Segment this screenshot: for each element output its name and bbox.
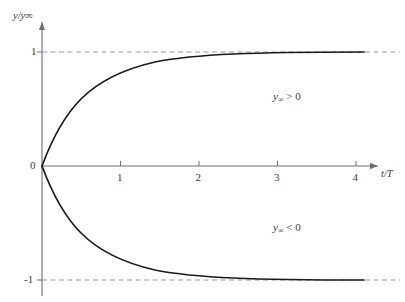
y-axis-arrowhead xyxy=(39,22,45,30)
y-tick-label-negative-one: -1 xyxy=(24,274,33,285)
x-axis-arrowhead xyxy=(370,163,378,169)
lower-region-subscript: ∞ xyxy=(278,226,284,235)
x-tick-label-2: 2 xyxy=(196,172,202,183)
x-axis-title: t/T xyxy=(381,169,393,180)
x-tick-label-4: 4 xyxy=(353,172,359,183)
upper-region-label: y∞ > 0 xyxy=(273,91,301,104)
chart-canvas xyxy=(0,0,405,302)
lower-region-relation: < 0 xyxy=(286,221,300,233)
lower-curve xyxy=(42,166,364,280)
y-axis-title-text: y/y∞ xyxy=(13,10,33,21)
lower-region-label: y∞ < 0 xyxy=(273,222,301,235)
x-tick-label-3: 3 xyxy=(274,172,280,183)
origin-tick-label: 0 xyxy=(30,160,36,171)
x-axis-title-text: t/T xyxy=(381,168,393,179)
x-tick-label-1: 1 xyxy=(117,172,123,183)
upper-curve xyxy=(42,52,364,166)
upper-region-subscript: ∞ xyxy=(278,95,284,104)
upper-region-relation: > 0 xyxy=(286,90,300,102)
figure-container: y/y∞ t/T 0 1 -1 1 2 3 4 y∞ > 0 y∞ < 0 xyxy=(0,0,405,302)
y-axis-title: y/y∞ xyxy=(13,11,33,22)
y-tick-label-positive-one: 1 xyxy=(31,46,37,57)
